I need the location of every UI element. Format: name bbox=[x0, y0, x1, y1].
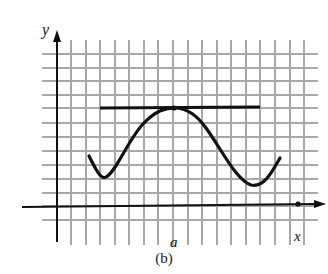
x-axis-arrow-icon bbox=[314, 200, 326, 208]
y-axis-arrow-icon bbox=[53, 30, 61, 42]
x-axis-label: x bbox=[294, 228, 301, 245]
grid bbox=[42, 40, 318, 245]
point-x bbox=[295, 201, 300, 206]
point-of-tangency bbox=[171, 105, 176, 110]
curve bbox=[89, 108, 280, 185]
function-graph bbox=[0, 0, 328, 274]
figure-caption: (b) bbox=[0, 250, 328, 267]
y-axis-label: y bbox=[42, 21, 49, 39]
tick-label-a: a bbox=[170, 234, 178, 251]
